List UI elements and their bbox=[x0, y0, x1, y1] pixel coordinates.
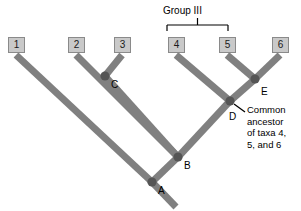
annotation-line-4: 5, and 6 bbox=[247, 139, 286, 151]
taxon-box-6: 6 bbox=[272, 37, 289, 53]
node-label-d: D bbox=[229, 112, 236, 122]
taxon-5-branch bbox=[227, 55, 255, 79]
node-label-c: C bbox=[111, 80, 118, 90]
annotation-line-2: ancestor bbox=[247, 116, 286, 128]
annotation-line-3: of taxa 4, bbox=[247, 127, 286, 139]
node-b-to-a bbox=[152, 157, 178, 182]
node-dot-d bbox=[225, 96, 234, 105]
annotation-line-1: Common bbox=[247, 104, 286, 116]
taxon-6-branch bbox=[255, 55, 280, 79]
taxon-1-branch bbox=[16, 55, 152, 182]
group-label: Group III bbox=[163, 5, 202, 16]
taxon-box-3: 3 bbox=[114, 37, 131, 53]
group-bracket bbox=[167, 18, 228, 31]
taxon-box-4: 4 bbox=[168, 37, 185, 53]
node-label-b: B bbox=[184, 161, 191, 171]
phylogenetic-tree-figure: 123456 ABCDE Group III Commonancestorof … bbox=[0, 0, 301, 211]
node-dot-c bbox=[100, 71, 109, 80]
taxon-4-branch bbox=[176, 55, 230, 101]
node-d-to-b bbox=[178, 101, 230, 157]
node-dot-a bbox=[147, 177, 156, 186]
node-e-to-d bbox=[230, 79, 255, 101]
common-ancestor-annotation: Commonancestorof taxa 4,5, and 6 bbox=[247, 104, 286, 150]
node-dots bbox=[100, 71, 259, 186]
node-label-a: A bbox=[158, 186, 165, 196]
node-dot-b bbox=[173, 152, 182, 161]
node-dot-e bbox=[250, 74, 259, 83]
node-label-e: E bbox=[261, 87, 268, 97]
taxon-box-1: 1 bbox=[8, 37, 25, 53]
taxon-box-5: 5 bbox=[219, 37, 236, 53]
taxon-box-2: 2 bbox=[68, 37, 85, 53]
